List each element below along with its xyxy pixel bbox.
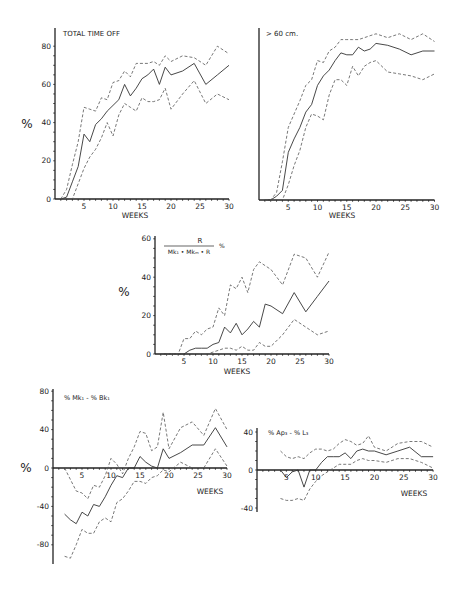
chart-over-60cm: 51015202530WEEKS: [259, 28, 439, 220]
series-upper: [61, 46, 229, 199]
chart-total-time-off: 51015202530020406080WEEKS%: [21, 28, 234, 220]
x-tick-label: 25: [295, 357, 305, 366]
x-axis-label: WEEKS: [197, 487, 224, 496]
figure-panels: 51015202530020406080WEEKS% 51015202530WE…: [0, 0, 464, 589]
y-tick-label: 0: [44, 464, 49, 473]
chart-r-ratio: 510152025300204060WEEKS%: [118, 234, 334, 376]
x-axis-label: WEEKS: [224, 367, 251, 376]
x-tick-label: 20: [371, 203, 381, 212]
series-lower: [265, 61, 435, 200]
y-tick-label: 40: [243, 428, 253, 437]
y-tick-label: 0: [46, 195, 51, 204]
x-tick-label: 25: [195, 202, 205, 211]
x-tick-label: 5: [182, 357, 187, 366]
x-tick-label: 25: [399, 473, 409, 482]
y-axis-label: %: [118, 285, 129, 299]
x-axis-label: WEEKS: [401, 489, 428, 498]
ratio-unit: %: [219, 242, 225, 249]
x-tick-label: 30: [324, 357, 334, 366]
x-tick-label: 30: [224, 202, 234, 211]
series-lower: [65, 449, 227, 558]
y-tick-label: 80: [41, 42, 51, 51]
series-upper: [161, 252, 329, 354]
series-upper: [265, 34, 435, 200]
series-mean: [61, 63, 229, 199]
x-tick-label: 25: [400, 203, 410, 212]
y-tick-label: -40: [37, 502, 49, 511]
x-tick-label: 20: [164, 471, 174, 480]
x-tick-label: 10: [208, 357, 218, 366]
x-axis-label: WEEKS: [329, 211, 356, 220]
ratio-numerator: R: [198, 237, 203, 245]
y-tick-label: 60: [141, 234, 151, 243]
x-tick-label: 25: [193, 471, 203, 480]
x-tick-label: 15: [340, 473, 350, 482]
chart-mk-minus-bk: 51015202530-80-4004080WEEKS%: [20, 387, 232, 564]
y-tick-label: 40: [41, 118, 51, 127]
x-tick-label: 15: [237, 357, 247, 366]
x-tick-label: 5: [80, 471, 85, 480]
y-tick-label: 40: [39, 425, 49, 434]
x-tick-label: 10: [313, 203, 323, 212]
series-lower: [161, 319, 329, 354]
series-mean: [281, 447, 434, 487]
y-tick-label: 80: [39, 387, 49, 396]
x-tick-label: 5: [286, 203, 291, 212]
chart-ap-minus-l: 51015202530-40040WEEKS: [241, 428, 438, 513]
ap-l-title: % Ap₃ - % L₃: [268, 429, 309, 437]
y-tick-label: -80: [37, 540, 49, 549]
series-mean: [161, 281, 329, 354]
total-title: TOTAL TIME OFF: [62, 30, 120, 38]
x-tick-label: 20: [166, 202, 176, 211]
y-axis-label: %: [21, 117, 32, 131]
x-tick-label: 30: [222, 471, 232, 480]
x-tick-label: 15: [135, 471, 145, 480]
series-lower: [61, 81, 229, 199]
x-tick-label: 10: [108, 202, 118, 211]
y-tick-label: 60: [41, 80, 51, 89]
x-axis-label: WEEKS: [122, 211, 149, 220]
mk-bk-title: % Mk₁ - % Bk₁: [64, 394, 110, 402]
x-tick-label: 20: [266, 357, 276, 366]
x-tick-label: 30: [428, 473, 438, 482]
x-tick-label: 5: [82, 202, 87, 211]
x-tick-label: 30: [430, 203, 440, 212]
y-tick-label: -40: [241, 504, 253, 513]
x-tick-label: 15: [137, 202, 147, 211]
series-upper: [65, 409, 227, 499]
ratio-denominator: Mk₁ • Mkₘ • R: [168, 248, 210, 255]
y-tick-label: 20: [41, 156, 51, 165]
y-tick-label: 20: [141, 311, 151, 320]
y-tick-label: 40: [141, 273, 151, 282]
over60-title: > 60 cm.: [266, 30, 298, 38]
y-axis-label: %: [20, 461, 31, 475]
x-tick-label: 20: [370, 473, 380, 482]
y-tick-label: 0: [146, 350, 151, 359]
y-tick-label: 0: [248, 466, 253, 475]
